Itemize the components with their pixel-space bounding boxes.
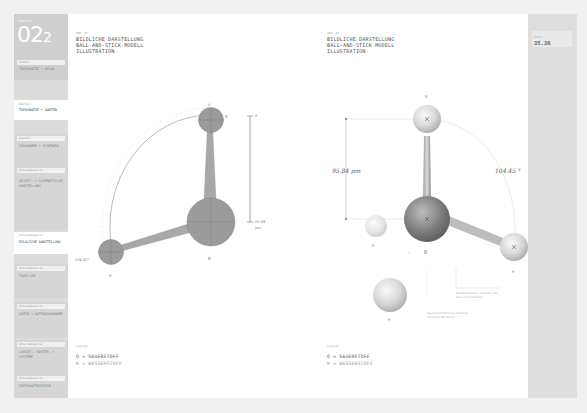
label-o-right: O <box>424 249 427 255</box>
legend-label-1: Legende <box>76 344 88 348</box>
label-h-top-left: H <box>225 114 227 119</box>
right-molecule <box>345 105 528 312</box>
label-h-bottom: H <box>388 317 390 322</box>
annotation-hbond-note: Wasserstoffbrücken-Bindung zwischen Mole… <box>427 312 468 319</box>
bond-left <box>112 224 192 253</box>
atom-h-left-faint <box>365 215 387 237</box>
label-h-left-right: H <box>372 243 374 248</box>
atom-h-bottom <box>373 278 407 312</box>
label-h-right: H <box>512 269 514 274</box>
page-number: 35.36 <box>534 40 551 46</box>
dimension-top-label: δ <box>255 114 257 118</box>
bond-length-label: 95.84 pm <box>332 167 361 174</box>
bond-length-value: 95.84 <box>255 220 265 224</box>
page-sidebar-right: Seite 35.36 <box>528 14 577 398</box>
note-line: zwischen Molekülen <box>427 316 468 320</box>
legend-label-2: Legende <box>327 344 339 348</box>
label-delta: δ⁺ <box>208 103 212 107</box>
molecule-diagrams <box>0 0 587 413</box>
label-o-left: O <box>208 256 211 261</box>
note-line: Wasserstoffatomen <box>456 296 498 300</box>
page-label: Seite <box>534 35 542 39</box>
label-plus: + <box>408 250 410 255</box>
bond-top <box>423 136 431 205</box>
label-h-top-right: H <box>425 94 427 99</box>
bond-length-unit: pm <box>255 226 261 230</box>
legend-hydrogen-1: H = WASSERSTOFF <box>76 361 122 366</box>
left-molecule <box>99 108 254 265</box>
label-h-left: H <box>109 273 111 278</box>
annotation-angle-note: Bindungswinkel zwischen den Wasserstoffa… <box>456 292 498 299</box>
bond-right <box>440 214 508 248</box>
angle-value-left: 104.45° <box>75 258 89 262</box>
legend-oxygen-1: O = SAUERSTOFF <box>76 354 119 359</box>
angle-label: 104.45 ° <box>495 167 521 174</box>
legend-oxygen-2: O = SAUERSTOFF <box>327 354 370 359</box>
legend-hydrogen-2: H = WASSERSTOFF <box>327 361 373 366</box>
